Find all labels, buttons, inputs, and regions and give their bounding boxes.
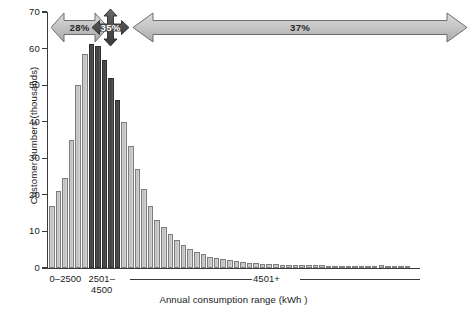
- bar: [207, 257, 213, 268]
- bar: [339, 266, 345, 268]
- annotation-label-35: 35%: [101, 22, 121, 33]
- bar: [240, 262, 246, 268]
- bar: [62, 178, 68, 268]
- bar: [405, 266, 411, 268]
- bar: [201, 254, 207, 268]
- bar: [379, 265, 385, 268]
- bar: [168, 234, 174, 268]
- bar: [220, 259, 226, 268]
- bar: [299, 265, 305, 268]
- bar: [56, 191, 62, 268]
- bar: [266, 264, 272, 268]
- category-rule-0: [130, 279, 252, 280]
- bar: [293, 265, 299, 268]
- bar: [135, 169, 141, 268]
- bar: [148, 206, 154, 268]
- chart-canvas: 010203040506070 Customer numbers (thousa…: [0, 0, 475, 312]
- bar: [108, 78, 114, 268]
- bar: [49, 206, 55, 268]
- bar: [385, 266, 391, 268]
- bar: [359, 266, 365, 268]
- bar: [313, 265, 319, 268]
- bar: [82, 54, 88, 268]
- bar: [69, 140, 75, 268]
- bar: [319, 265, 325, 268]
- y-axis-title: Customer numbers (thousands): [28, 41, 39, 231]
- bar: [372, 266, 378, 268]
- bar: [161, 227, 167, 268]
- bar: [75, 85, 81, 268]
- annotation-arrow-37: 37%: [133, 11, 467, 44]
- bar: [234, 261, 240, 268]
- bar: [273, 264, 279, 268]
- bar: [181, 245, 187, 268]
- bar: [128, 146, 134, 268]
- bar: [280, 265, 286, 268]
- y-tick-label: 0: [20, 262, 40, 273]
- bar: [247, 263, 253, 268]
- bar: [174, 240, 180, 268]
- bar: [214, 258, 220, 268]
- x-axis-title: Annual consumption range (kWh ): [47, 294, 420, 305]
- bar: [326, 266, 332, 268]
- bar: [95, 46, 101, 268]
- y-tick-label: 70: [20, 6, 40, 17]
- annotation-arrow-35: 35%: [92, 9, 129, 46]
- bar: [365, 266, 371, 268]
- bar: [253, 263, 259, 268]
- bar: [121, 122, 127, 268]
- bar: [187, 249, 193, 268]
- bar: [102, 60, 108, 268]
- bar: [346, 266, 352, 268]
- bar: [352, 266, 358, 268]
- annotation-label-28: 28%: [70, 22, 90, 33]
- annotation-label-37: 37%: [290, 22, 310, 33]
- category-rule-1: [300, 279, 420, 280]
- bar: [115, 100, 121, 268]
- bar: [154, 220, 160, 268]
- bar: [141, 189, 147, 268]
- bar: [286, 265, 292, 268]
- bar: [194, 252, 200, 268]
- bar: [260, 264, 266, 268]
- bar: [398, 266, 404, 268]
- category-axis-label-1: 2501– 4500: [62, 274, 142, 295]
- bar: [89, 44, 95, 268]
- bar: [306, 265, 312, 268]
- bar: [227, 260, 233, 268]
- bar: [392, 266, 398, 268]
- bar-series: [47, 12, 420, 268]
- bar: [332, 266, 338, 268]
